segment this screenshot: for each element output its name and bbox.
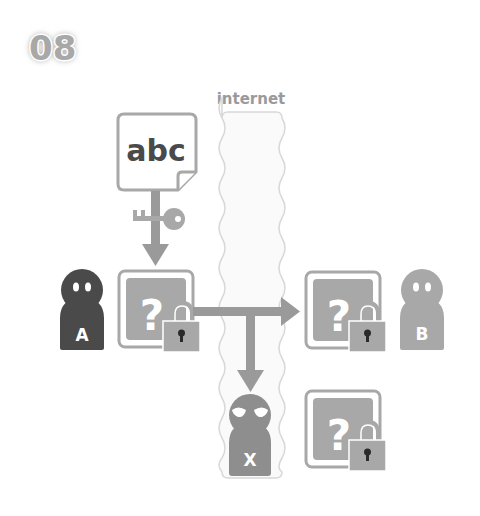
internet-label: internet (217, 90, 286, 108)
sender-avatar: A (60, 269, 104, 350)
transmission-arrow (193, 297, 300, 392)
eavesdropper-avatar: X (229, 394, 271, 476)
receiver-avatar: B (400, 269, 444, 350)
svg-text:?: ? (327, 411, 351, 460)
document-icon: abc (118, 114, 196, 190)
sender-label: A (75, 325, 89, 345)
step-number: 08 08 (29, 28, 76, 68)
svg-text:08: 08 (29, 28, 76, 68)
encrypt-arrow (142, 191, 169, 266)
encrypted-box-intercepted: ? (306, 391, 386, 471)
encrypted-box-receiver: ? (306, 272, 386, 352)
eavesdropper-label: X (243, 450, 256, 470)
document-text: abc (126, 133, 186, 168)
receiver-label: B (416, 324, 429, 344)
svg-text:?: ? (327, 292, 351, 341)
encrypted-box-sender: ? (119, 271, 200, 352)
svg-text:?: ? (140, 291, 164, 340)
